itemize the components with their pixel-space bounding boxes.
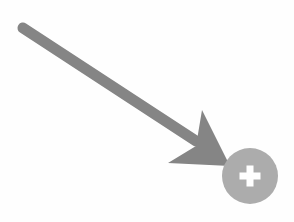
plus-icon-vertical-bar: [247, 166, 254, 187]
arrow-callout-graphic: [0, 0, 294, 222]
screenshot-canvas: Annotation arrow pointing to add button …: [0, 0, 294, 222]
add-button[interactable]: [222, 148, 278, 204]
